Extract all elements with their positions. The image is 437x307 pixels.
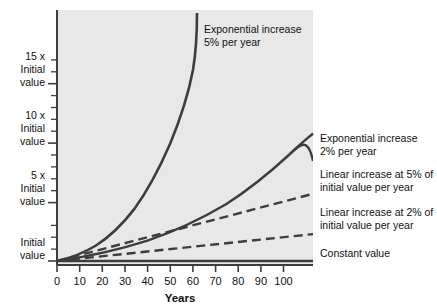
annotation-exponential-5pct-line2: 5% per year xyxy=(204,36,261,48)
legend-label-constant-value-line1: Constant value xyxy=(320,247,390,259)
x-tick-label: 40 xyxy=(141,275,153,287)
legend-label-exponential-2pct-line2: 2% per year xyxy=(320,145,377,157)
legend-label-linear-5pct-line1: Linear increase at 5% of xyxy=(320,168,433,180)
x-axis-title: Years xyxy=(165,292,196,304)
legend-label-linear-5pct-line2: initial value per year xyxy=(320,181,414,193)
x-tick-label: 50 xyxy=(164,275,176,287)
x-tick-label: 30 xyxy=(119,275,131,287)
legend-label-linear-5pct: Linear increase at 5% of initial value p… xyxy=(320,168,433,193)
legend-label-linear-2pct: Linear increase at 2% of initial value p… xyxy=(320,206,433,231)
x-tick-label: 60 xyxy=(187,275,199,287)
legend-label-exponential-2pct-line1: Exponential increase xyxy=(320,132,418,144)
y-axis-major-ticks xyxy=(48,84,57,261)
y-tick-label-5x-line1: 5 x xyxy=(31,169,46,181)
x-tick-label: 80 xyxy=(232,275,244,287)
y-tick-label-15x-line1: 15 x xyxy=(25,50,46,62)
y-tick-label-5x-line2: Initial xyxy=(20,182,45,194)
legend-label-constant-value: Constant value xyxy=(320,247,390,259)
chart-figure: 0 10 20 30 40 50 60 70 80 90 100 Years 1… xyxy=(0,0,437,307)
x-tick-label: 100 xyxy=(274,275,292,287)
y-tick-label-10x-line2: Initial xyxy=(20,122,45,134)
y-tick-label-15x-line2: Initial xyxy=(20,63,45,75)
y-tick-labels: 15 x Initial value 10 x Initial value 5 … xyxy=(20,50,46,261)
x-tick-label: 90 xyxy=(255,275,267,287)
y-tick-label-initial-line1: Initial xyxy=(20,236,45,248)
x-tick-label: 70 xyxy=(209,275,221,287)
x-tick-labels: 0 10 20 30 40 50 60 70 80 90 100 xyxy=(54,275,293,287)
x-tick-label: 0 xyxy=(54,275,60,287)
y-tick-label-10x-line3: value xyxy=(20,135,45,147)
y-tick-label-initial-line2: value xyxy=(20,249,45,261)
legend-label-linear-2pct-line1: Linear increase at 2% of xyxy=(320,206,433,218)
x-tick-label: 20 xyxy=(96,275,108,287)
y-tick-label-10x-line1: 10 x xyxy=(25,109,46,121)
legend-label-exponential-2pct: Exponential increase 2% per year xyxy=(320,132,418,157)
annotation-exponential-5pct-line1: Exponential increase xyxy=(204,23,302,35)
legend-label-linear-2pct-line2: initial value per year xyxy=(320,219,414,231)
chart-svg: 0 10 20 30 40 50 60 70 80 90 100 Years 1… xyxy=(0,0,437,307)
x-axis-ticks xyxy=(57,265,284,272)
y-tick-label-5x-line3: value xyxy=(20,195,45,207)
x-tick-label: 10 xyxy=(74,275,86,287)
y-tick-label-15x-line3: value xyxy=(20,76,45,88)
